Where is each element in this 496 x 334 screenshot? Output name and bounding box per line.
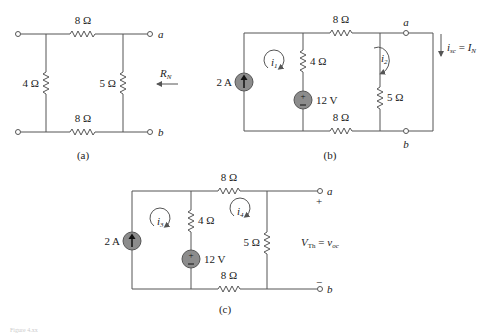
label-c-terminal-a: a [327,185,333,197]
resistor-bottom-8ohm [330,128,352,134]
figure-caption: Figure 4.xx [10,327,38,333]
terminal-left-top [16,32,21,37]
terminal-b [404,129,409,134]
resistor-top-8ohm [330,30,352,36]
voltage-source-12v: + [182,250,200,268]
resistor-bottom-8ohm [218,286,240,292]
label-i3: i3 [157,215,164,229]
label-b-terminal-a: a [403,16,409,28]
label-a-terminal-a: a [158,28,164,40]
label-i2: i2 [381,52,388,66]
label-i1: i1 [271,56,278,70]
resistor-top-8ohm [70,31,95,37]
resistor-bottom-8ohm [70,129,95,135]
label-rn: RN [159,67,172,81]
resistor-left-4ohm [43,72,49,94]
label-c-12v: 12 V [204,253,226,265]
resistor-5ohm [377,87,383,109]
panel-label-a: (a) [77,149,90,162]
label-i4: i4 [237,205,244,219]
terminal-a [404,31,409,36]
resistor-5ohm [264,232,270,254]
label-c-plus: + [316,195,322,207]
label-c-terminal-b: b [327,283,333,295]
current-source-2a [235,73,253,91]
label-b-top-resistor: 8 Ω [333,13,349,25]
current-source-2a [123,232,141,250]
resistor-4ohm [300,50,306,72]
label-a-left-resistor: 4 Ω [23,77,39,89]
label-a-bottom-resistor: 8 Ω [75,112,91,124]
label-c-minus: − [316,276,322,288]
voltage-source-12v: + [294,91,312,109]
label-b-12v: 12 V [316,94,338,106]
panel-label-c: (c) [219,303,232,316]
label-b-5ohm: 5 Ω [387,91,403,103]
resistor-top-8ohm [218,188,240,194]
label-b-bottom-resistor: 8 Ω [333,111,349,123]
label-c-bottom-resistor: 8 Ω [221,269,237,281]
terminal-a [148,32,153,37]
label-a-top-resistor: 8 Ω [75,14,91,26]
label-c-2a: 2 A [104,235,120,247]
plus-sign: + [300,91,305,101]
label-a-terminal-b: b [158,126,164,138]
figure-canvas: 8 Ω 8 Ω 4 Ω 5 Ω a b RN (a) + [0,0,496,334]
terminal-b [148,130,153,135]
label-c-4ohm: 4 Ω [198,214,214,226]
label-c-5ohm: 5 Ω [244,236,260,248]
label-b-2a: 2 A [216,76,232,88]
terminal-left-bottom [16,130,21,135]
label-b-4ohm: 4 Ω [310,55,326,67]
terminal-a [318,189,323,194]
resistor-right-5ohm [120,72,126,94]
plus-sign: + [188,250,193,260]
label-isc-eq-in: isc = IN [447,41,476,55]
resistor-4ohm [188,210,194,232]
label-a-right-resistor: 5 Ω [100,77,116,89]
label-b-terminal-b: b [403,138,409,150]
panel-a [16,31,179,135]
label-c-top-resistor: 8 Ω [221,171,237,183]
label-vth-eq-voc: VTh = voc [301,236,340,250]
panel-label-b: (b) [324,149,337,162]
